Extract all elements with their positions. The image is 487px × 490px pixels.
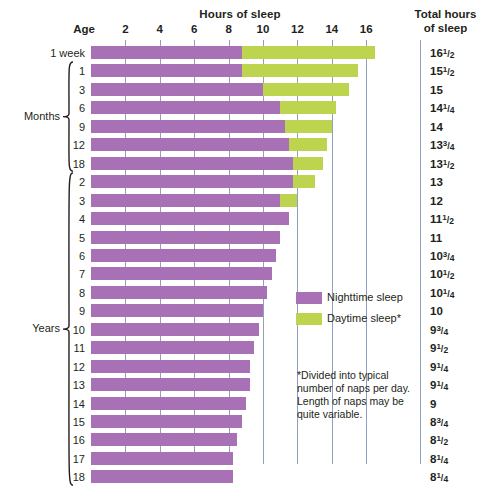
total-hours-value: 11 bbox=[430, 232, 486, 244]
total-hours-title-line1: Total hours bbox=[404, 8, 487, 22]
total-hours-value: 101/2 bbox=[430, 268, 486, 281]
total-hours-value: 14 bbox=[430, 121, 486, 133]
bracket-months bbox=[62, 61, 74, 172]
row-age-label: 14 bbox=[37, 398, 85, 410]
total-hours-value: 103/4 bbox=[430, 250, 486, 263]
total-hours-value: 91/2 bbox=[430, 342, 486, 355]
bar-nighttime-sleep bbox=[91, 138, 289, 151]
row-age-label: 12 bbox=[37, 361, 85, 373]
bar-nighttime-sleep bbox=[91, 120, 285, 133]
bar-nighttime-sleep bbox=[91, 83, 263, 96]
bar-daytime-sleep bbox=[293, 175, 315, 188]
row-age-label: 13 bbox=[37, 379, 85, 391]
row-age-label: 3 bbox=[37, 84, 85, 96]
row-age-label: 5 bbox=[37, 232, 85, 244]
bar-daytime-sleep bbox=[263, 83, 349, 96]
bar-nighttime-sleep bbox=[91, 452, 233, 465]
bar-nighttime-sleep bbox=[91, 231, 280, 244]
x-tick-label-12: 12 bbox=[285, 23, 309, 35]
bracket-years bbox=[62, 172, 74, 486]
bar-nighttime-sleep bbox=[91, 286, 267, 299]
total-hours-value: 93/4 bbox=[430, 324, 486, 337]
row-age-label: 15 bbox=[37, 416, 85, 428]
bar-nighttime-sleep bbox=[91, 46, 242, 59]
bar-nighttime-sleep bbox=[91, 175, 293, 188]
row-age-label: 1 week bbox=[37, 47, 85, 59]
total-hours-value: 13 bbox=[430, 176, 486, 188]
total-hours-value: 83/4 bbox=[430, 416, 486, 429]
sleep-duration-chart: Hours of sleep Total hours of sleep Age … bbox=[0, 0, 487, 490]
total-hours-title-line2: of sleep bbox=[404, 22, 487, 36]
bar-daytime-sleep bbox=[289, 138, 328, 151]
x-tick-label-16: 16 bbox=[354, 23, 378, 35]
bar-nighttime-sleep bbox=[91, 397, 246, 410]
bar-nighttime-sleep bbox=[91, 267, 272, 280]
legend-swatch-day bbox=[296, 313, 322, 325]
row-age-label: 17 bbox=[37, 453, 85, 465]
total-hours-value: 81/4 bbox=[430, 471, 486, 484]
x-tick-label-14: 14 bbox=[320, 23, 344, 35]
row-age-label: 18 bbox=[37, 471, 85, 483]
row-age-label: 1 bbox=[37, 65, 85, 77]
total-hours-value: 12 bbox=[430, 195, 486, 207]
footnote-text: *Divided into typical number of naps per… bbox=[297, 369, 427, 421]
total-hours-value: 131/2 bbox=[430, 158, 486, 171]
total-hours-column-title: Total hours of sleep bbox=[404, 8, 487, 35]
legend-label-night: Nighttime sleep bbox=[327, 291, 403, 303]
row-age-label: 2 bbox=[37, 176, 85, 188]
bar-daytime-sleep bbox=[242, 64, 358, 77]
total-hours-value: 91/4 bbox=[430, 361, 486, 374]
bar-nighttime-sleep bbox=[91, 341, 254, 354]
row-age-label: 18 bbox=[37, 158, 85, 170]
total-hours-value: 91/4 bbox=[430, 379, 486, 392]
legend-swatch-night bbox=[296, 292, 322, 304]
bar-nighttime-sleep bbox=[91, 378, 250, 391]
row-age-label: 12 bbox=[37, 139, 85, 151]
bar-nighttime-sleep bbox=[91, 157, 293, 170]
bar-nighttime-sleep bbox=[91, 194, 280, 207]
row-age-label: 7 bbox=[37, 268, 85, 280]
total-hours-value: 15 bbox=[430, 84, 486, 96]
bar-nighttime-sleep bbox=[91, 249, 276, 262]
bracket-label-months: Months bbox=[0, 110, 60, 122]
bar-daytime-sleep bbox=[280, 194, 297, 207]
age-column-title: Age bbox=[55, 23, 95, 35]
chart-title-hours-of-sleep: Hours of sleep bbox=[150, 8, 330, 20]
row-age-label: 4 bbox=[37, 213, 85, 225]
total-hours-value: 111/2 bbox=[430, 213, 486, 226]
total-hours-value: 161/2 bbox=[430, 47, 486, 60]
x-tick-label-2: 2 bbox=[113, 23, 137, 35]
bar-nighttime-sleep bbox=[91, 323, 259, 336]
total-hours-value: 10 bbox=[430, 305, 486, 317]
x-tick-label-4: 4 bbox=[148, 23, 172, 35]
total-hours-value: 151/2 bbox=[430, 65, 486, 78]
row-age-label: 9 bbox=[37, 305, 85, 317]
row-age-label: 11 bbox=[37, 342, 85, 354]
legend-label-day: Daytime sleep* bbox=[327, 312, 401, 324]
total-hours-value: 133/4 bbox=[430, 139, 486, 152]
total-hours-value: 9 bbox=[430, 398, 486, 410]
total-hours-value: 81/2 bbox=[430, 434, 486, 447]
bar-nighttime-sleep bbox=[91, 212, 289, 225]
row-age-label: 16 bbox=[37, 434, 85, 446]
x-tick-label-10: 10 bbox=[251, 23, 275, 35]
bar-nighttime-sleep bbox=[91, 415, 242, 428]
bar-daytime-sleep bbox=[280, 101, 336, 114]
bar-nighttime-sleep bbox=[91, 470, 233, 483]
bar-daytime-sleep bbox=[242, 46, 375, 59]
row-age-label: 3 bbox=[37, 195, 85, 207]
bar-nighttime-sleep bbox=[91, 360, 250, 373]
bar-nighttime-sleep bbox=[91, 304, 263, 317]
total-hours-value: 81/4 bbox=[430, 453, 486, 466]
bar-daytime-sleep bbox=[293, 157, 323, 170]
bar-nighttime-sleep bbox=[91, 64, 242, 77]
x-tick-label-8: 8 bbox=[217, 23, 241, 35]
bar-daytime-sleep bbox=[285, 120, 332, 133]
total-hours-value: 141/4 bbox=[430, 102, 486, 115]
row-age-label: 8 bbox=[37, 287, 85, 299]
row-age-label: 6 bbox=[37, 250, 85, 262]
total-hours-value: 101/4 bbox=[430, 287, 486, 300]
x-tick-label-6: 6 bbox=[182, 23, 206, 35]
bar-nighttime-sleep bbox=[91, 433, 237, 446]
row-age-label: 9 bbox=[37, 121, 85, 133]
